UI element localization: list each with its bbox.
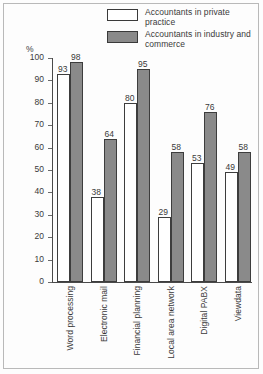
bar: 29 [158, 217, 171, 282]
bar-value-label: 49 [226, 162, 235, 172]
x-axis-label: Digital PABX [199, 286, 209, 335]
y-tick-90: 90 [48, 80, 52, 81]
bar: 38 [91, 197, 104, 282]
bar-group: 9398 [57, 58, 83, 282]
y-tick-30: 30 [48, 215, 52, 216]
bar-value-label: 76 [205, 102, 214, 112]
x-axis-line [52, 282, 252, 283]
bar: 49 [225, 172, 238, 282]
y-tick-label-20: 20 [35, 231, 44, 241]
x-axis-label: Viewdata [233, 286, 243, 321]
y-tick-label-90: 90 [35, 74, 44, 84]
x-axis-label: Local area network [166, 286, 176, 359]
x-axis-label: Word processing [65, 286, 75, 350]
x-axis-category-labels: Word processingElectronic mailFinancial … [52, 286, 257, 374]
bar-group: 3864 [91, 58, 117, 282]
legend-label-private-practice: Accountants in private practice [145, 8, 259, 27]
bar-value-label: 95 [138, 59, 147, 69]
y-tick-80: 80 [48, 103, 52, 104]
bar-value-label: 29 [159, 207, 168, 217]
y-tick-40: 40 [48, 192, 52, 193]
y-tick-label-30: 30 [35, 209, 44, 219]
bar-group: 5376 [191, 58, 217, 282]
y-tick-100: 100 [48, 58, 52, 59]
bars-layer: 939838648095295853764958 [53, 58, 252, 282]
bar-value-label: 80 [125, 93, 134, 103]
x-axis-label-text: Local area network [166, 286, 176, 359]
bar: 93 [57, 74, 70, 282]
bar: 53 [191, 163, 204, 282]
x-axis-label-text: Word processing [65, 286, 75, 350]
plot-area: 0102030405060708090100 93983864809529585… [52, 58, 252, 283]
y-tick-0: 0 [48, 282, 52, 283]
legend-item-industry-commerce: Accountants in industry and commerce [107, 30, 259, 49]
bar: 95 [137, 69, 150, 282]
y-tick-label-60: 60 [35, 142, 44, 152]
y-tick-label-100: 100 [30, 52, 44, 62]
legend-swatch-industry-commerce [107, 31, 138, 43]
y-tick-label-70: 70 [35, 119, 44, 129]
bar-value-label: 58 [239, 142, 248, 152]
x-axis-label-text: Viewdata [233, 286, 243, 321]
y-tick-10: 10 [48, 260, 52, 261]
x-axis-label: Electronic mail [99, 286, 109, 342]
bar: 58 [171, 152, 184, 282]
bar-group: 4958 [225, 58, 251, 282]
bar: 98 [70, 62, 83, 282]
bar-chart: Accountants in private practice Accounta… [0, 0, 263, 374]
bar-group: 8095 [124, 58, 150, 282]
y-tick-70: 70 [48, 125, 52, 126]
legend-swatch-private-practice [107, 9, 138, 21]
legend-item-private-practice: Accountants in private practice [107, 8, 259, 27]
bar-value-label: 38 [92, 187, 101, 197]
bar: 58 [238, 152, 251, 282]
x-axis-label-text: Financial planning [132, 286, 142, 355]
y-tick-label-0: 0 [39, 276, 44, 286]
y-tick-20: 20 [48, 237, 52, 238]
bar-value-label: 98 [71, 52, 80, 62]
y-tick-50: 50 [48, 170, 52, 171]
y-tick-label-80: 80 [35, 97, 44, 107]
x-axis-label-text: Digital PABX [199, 286, 209, 335]
bar: 76 [204, 112, 217, 282]
bar-group: 2958 [158, 58, 184, 282]
y-tick-label-40: 40 [35, 186, 44, 196]
y-tick-label-50: 50 [35, 164, 44, 174]
x-axis-label: Financial planning [132, 286, 142, 355]
bar: 64 [104, 139, 117, 282]
bar-value-label: 93 [58, 64, 67, 74]
y-tick-60: 60 [48, 148, 52, 149]
x-axis-label-text: Electronic mail [99, 286, 109, 342]
chart-legend: Accountants in private practice Accounta… [107, 8, 259, 52]
bar-value-label: 58 [172, 142, 181, 152]
legend-label-industry-commerce: Accountants in industry and commerce [145, 30, 259, 49]
bar: 80 [124, 103, 137, 282]
bar-value-label: 53 [192, 153, 201, 163]
bar-value-label: 64 [105, 129, 114, 139]
y-tick-label-10: 10 [35, 254, 44, 264]
